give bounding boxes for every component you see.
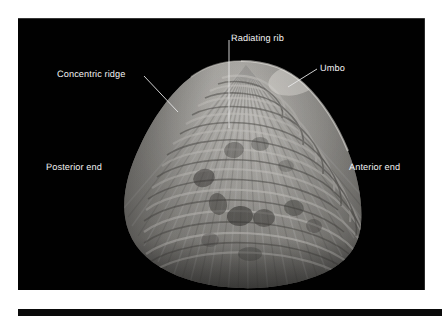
clam-shell-illustration bbox=[118, 58, 368, 290]
figure-root: Radiating rib Concentric ridge Umbo Post… bbox=[0, 0, 442, 316]
label-posterior-end: Posterior end bbox=[46, 162, 102, 173]
clam-shell-image bbox=[118, 58, 368, 290]
label-concentric-ridge: Concentric ridge bbox=[57, 69, 126, 80]
photograph-plate bbox=[18, 18, 425, 290]
label-umbo: Umbo bbox=[320, 63, 345, 74]
label-radiating-rib: Radiating rib bbox=[231, 33, 284, 44]
label-anterior-end: Anterior end bbox=[349, 162, 400, 173]
shell-body bbox=[118, 58, 368, 290]
bottom-rule bbox=[18, 309, 442, 316]
